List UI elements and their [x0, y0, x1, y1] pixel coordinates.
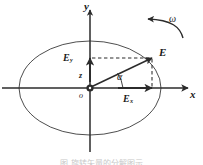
vector-diagram-svg — [0, 0, 203, 165]
resultant-vector-label: E — [159, 47, 166, 58]
origin-label: o — [79, 92, 83, 100]
figure-caption: 图 旋转矢量的分解图示 — [0, 159, 203, 165]
z-axis-label: z — [79, 72, 82, 80]
y-component-label-subscript: y — [70, 56, 73, 63]
x-component-label-subscript: x — [130, 97, 133, 104]
omega-rotation-arc — [148, 19, 183, 38]
x-axis-label: x — [190, 89, 196, 100]
figure-container: y x z o E Ey Ex α ω 图 旋转矢量的分解图示 — [0, 0, 203, 165]
origin-z-dot-inner — [89, 87, 92, 90]
y-component-label: Ey — [63, 53, 73, 63]
y-axis-label: y — [84, 1, 89, 12]
x-component-label-base: E — [123, 93, 130, 104]
y-component-label-base: E — [63, 52, 70, 63]
x-component-label: Ex — [123, 94, 133, 104]
angular-velocity-label-omega: ω — [169, 14, 176, 24]
angle-label-alpha: α — [117, 72, 122, 82]
